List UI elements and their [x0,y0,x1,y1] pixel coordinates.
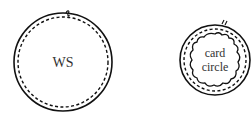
card-thread-tail-icon [222,20,227,25]
ws-label: WS [53,55,74,70]
card-label-line2: circle [202,60,229,74]
diagram-canvas: WS card circle [0,0,251,127]
ws-circle: WS [14,11,112,111]
card-label-line1: card [205,46,226,60]
card-circle: card circle [180,20,250,95]
